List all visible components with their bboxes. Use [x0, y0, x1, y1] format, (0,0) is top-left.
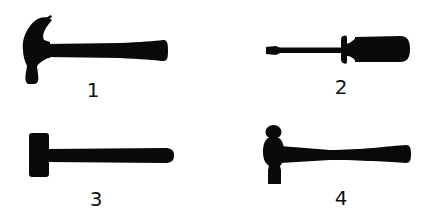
- tool-label-4: 4: [335, 188, 348, 208]
- tools-drawing: [0, 0, 436, 220]
- tool-label-2: 2: [335, 77, 348, 97]
- screwdriver-icon: [266, 35, 410, 63]
- tool-label-3: 3: [90, 189, 103, 209]
- ball-peen-hammer-icon: [263, 125, 411, 184]
- sledgehammer-icon: [29, 133, 174, 177]
- claw-hammer-icon: [23, 15, 168, 84]
- tool-grid: 1 2 3 4: [0, 0, 436, 220]
- tool-label-1: 1: [87, 80, 100, 100]
